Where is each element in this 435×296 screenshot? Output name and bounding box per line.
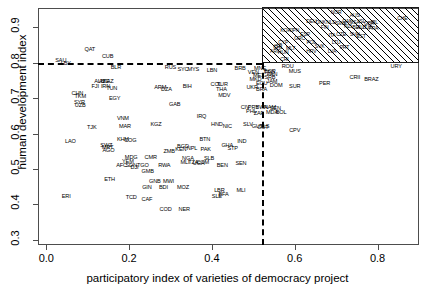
- y-tick-0.5: 0.5: [9, 154, 21, 180]
- point-label-LAO: LAO: [65, 139, 76, 145]
- point-label-BDI: BDI: [159, 185, 168, 191]
- point-label-KEN: KEN: [175, 147, 186, 153]
- point-label-NPL: NPL: [187, 146, 197, 152]
- point-label-BIH: BIH: [183, 84, 192, 90]
- point-label-CAF: CAF: [142, 197, 153, 203]
- point-label-PRT: PRT: [340, 45, 350, 51]
- x-axis-title: participatory index of varieties of demo…: [0, 272, 435, 284]
- point-label-QAT: QAT: [84, 47, 95, 53]
- point-label-URY: URY: [391, 64, 402, 70]
- point-label-IRQ: IRQ: [197, 114, 207, 120]
- point-label-TJK: TJK: [87, 125, 97, 131]
- point-label-PER: PER: [319, 81, 330, 87]
- point-label-DJI: DJI: [131, 165, 139, 171]
- y-tick-0.8: 0.8: [9, 48, 21, 74]
- y-tick-0.9: 0.9: [9, 12, 21, 38]
- x-tick-mark: [129, 245, 130, 250]
- point-label-GIN: GIN: [142, 185, 152, 191]
- point-label-MAR: MAR: [119, 124, 131, 130]
- point-label-CHE: CHE: [397, 16, 407, 22]
- point-label-CMR: CMR: [144, 156, 156, 162]
- point-label-NIC: NIC: [223, 124, 232, 130]
- point-label-BOL: BOL: [276, 111, 287, 117]
- point-label-KGZ: KGZ: [150, 123, 161, 129]
- point-label-EGY: EGY: [109, 96, 120, 102]
- point-label-BTN: BTN: [200, 137, 211, 143]
- x-tick-0.6: 0.6: [275, 252, 315, 264]
- point-label-LBN: LBN: [207, 68, 217, 74]
- point-label-FJI: FJI: [91, 84, 98, 90]
- point-label-MYS: MYS: [187, 67, 199, 73]
- point-label-VNM: VNM: [117, 117, 129, 123]
- x-tick-mark: [378, 245, 379, 250]
- point-label-DZA: DZA: [161, 88, 172, 94]
- point-label-IND: IND: [237, 140, 246, 146]
- point-label-ZAF: ZAF: [254, 111, 264, 117]
- point-label-MDV: MDV: [218, 93, 230, 99]
- point-label-ERI: ERI: [62, 194, 71, 200]
- point-label-BFA: BFA: [218, 192, 228, 198]
- hdi-threshold-line: [38, 63, 262, 65]
- point-label-BRA: BRA: [256, 87, 267, 93]
- x-tick-0.0: 0.0: [26, 252, 66, 264]
- x-tick-0.8: 0.8: [358, 252, 398, 264]
- point-label-FIN: FIN: [321, 25, 329, 31]
- point-label-AFC: AFC: [116, 163, 127, 169]
- point-label-EST: EST: [356, 34, 365, 40]
- point-label-TUN: TUN: [106, 86, 117, 92]
- point-label-CZE: CZE: [336, 32, 346, 38]
- point-label-RWA: RWA: [158, 164, 170, 170]
- y-tick-0.3: 0.3: [9, 225, 21, 251]
- point-label-KOR: KOR: [280, 28, 291, 34]
- point-label-HRV: HRV: [306, 49, 316, 55]
- point-label-MLT: MLT: [286, 46, 295, 52]
- point-label-TCD: TCD: [126, 195, 137, 201]
- point-label-SEN2: SEN: [235, 162, 246, 168]
- point-label-BRAZ: BRAZ: [364, 77, 378, 83]
- point-label-MOZ: MOZ: [177, 186, 189, 192]
- point-label-ECU: ECU: [256, 81, 267, 87]
- point-label-CRII: CRII: [350, 76, 361, 82]
- point-label-GAB: GAB: [169, 102, 180, 108]
- point-label-BEN: BEN: [217, 163, 228, 169]
- x-tick-mark: [212, 245, 213, 250]
- point-label-CRI: CRI: [280, 58, 288, 64]
- point-label-COD: COD: [160, 208, 172, 214]
- point-label-RUS: RUS: [165, 66, 176, 72]
- point-label-MUS: MUS: [289, 69, 301, 75]
- point-label-LBY: LBY: [61, 61, 71, 67]
- point-label-JPN: JPN: [290, 28, 299, 34]
- x-tick-0.4: 0.4: [192, 252, 232, 264]
- point-label-FRA: FRA: [369, 26, 379, 32]
- y-tick-0.7: 0.7: [9, 83, 21, 109]
- point-label-ETH: ETH: [104, 177, 115, 183]
- point-label-GMB: GMB: [142, 169, 154, 175]
- x-tick-mark: [295, 245, 296, 250]
- point-label-NER: NER: [179, 208, 190, 214]
- point-label-COG: COG: [124, 138, 136, 144]
- point-label-AGO: AGO: [102, 148, 114, 154]
- point-label-CPV: CPV: [289, 128, 300, 134]
- point-label-SUR: SUR: [289, 84, 300, 90]
- scatter-plot-figure: human development index participatory in…: [0, 0, 435, 296]
- y-tick-0.4: 0.4: [9, 189, 21, 215]
- point-label-PAK: PAK: [201, 147, 211, 153]
- point-label-ITA: ITA: [328, 33, 335, 39]
- point-label-CUB: CUB: [102, 54, 113, 60]
- point-label-DOM: DOM: [270, 83, 283, 89]
- point-label-COM: COM: [197, 160, 210, 166]
- x-tick-0.2: 0.2: [109, 252, 149, 264]
- point-label-BLR: BLR: [111, 65, 121, 71]
- x-tick-mark: [46, 245, 47, 250]
- point-label-BRB: BRB: [235, 66, 246, 72]
- point-label-HND: HND: [211, 122, 223, 128]
- point-label-UZB: UZB: [75, 103, 86, 109]
- point-label-ZMB: ZMB: [164, 149, 175, 155]
- point-label-NOR: NOR: [331, 11, 342, 17]
- point-label-MLI2: MLI: [236, 188, 245, 194]
- point-label-STP: STP: [227, 146, 237, 152]
- point-label-LVA: LVA: [328, 49, 336, 55]
- point-label-GRC: GRC: [294, 37, 305, 43]
- point-label-GUT: GUT: [257, 125, 268, 131]
- y-tick-0.6: 0.6: [9, 119, 21, 145]
